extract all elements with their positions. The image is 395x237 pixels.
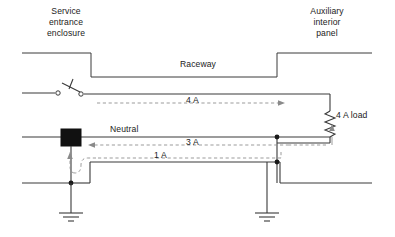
disconnect-switch-icon — [56, 79, 83, 96]
neutral-label: Neutral — [110, 124, 138, 135]
junction-dots — [69, 135, 280, 186]
ungrounded-conductor — [22, 93, 330, 111]
auxiliary-panel-line-1: Auxiliary — [284, 6, 370, 17]
panel-ground-electrode-icon — [255, 162, 279, 221]
service-entrance-label: Service entrance enclosure — [22, 6, 110, 39]
service-entrance-line-1: Service — [22, 6, 110, 17]
auxiliary-panel-label: Auxiliary interior panel — [284, 6, 370, 39]
load-label: 4 A load — [336, 110, 367, 121]
raceway-label: Raceway — [148, 59, 248, 70]
current-label-4a: 4 A — [186, 95, 199, 106]
main-bonding-jumper — [61, 129, 81, 146]
current-label-1a: 1 A — [154, 150, 167, 161]
current-label-3a: 3 A — [186, 137, 199, 148]
load-resistor-icon — [277, 111, 335, 143]
service-entrance-line-2: entrance — [22, 17, 110, 28]
auxiliary-panel-line-3: panel — [284, 28, 370, 39]
service-entrance-line-3: enclosure — [22, 28, 110, 39]
auxiliary-panel-line-2: interior — [284, 17, 370, 28]
service-ground-electrode-icon — [59, 183, 83, 221]
diagram-canvas: Service entrance enclosure Auxiliary int… — [0, 0, 395, 237]
